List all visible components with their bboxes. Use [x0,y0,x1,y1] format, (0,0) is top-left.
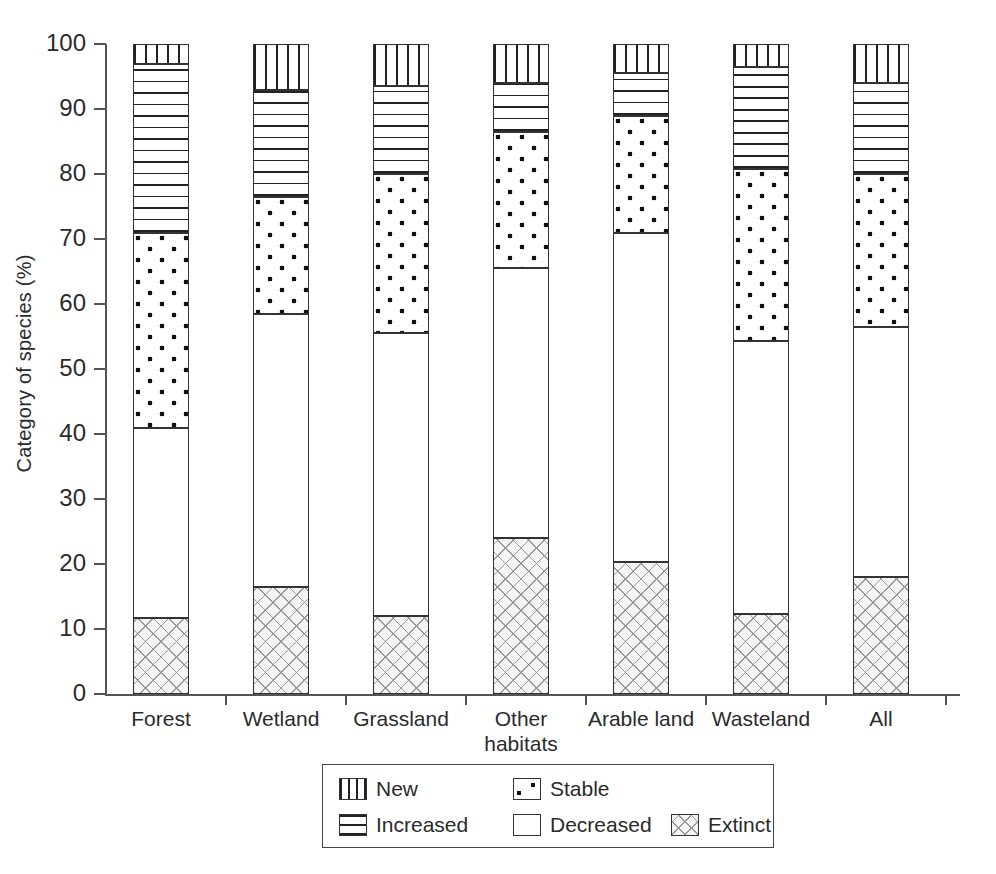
bar-segment-new [733,44,789,67]
bar-segment-new [613,44,669,73]
legend-label: Extinct [708,813,771,837]
bar-wasteland [733,44,789,694]
decreased-pattern-icon [513,814,541,836]
y-tick-label: 30 [20,486,86,510]
bar-segment-increased [493,83,549,132]
bar-segment-stable [853,174,909,327]
stable-pattern-icon [513,778,541,800]
x-category-line: Wetland [211,706,351,731]
bar-segment-stable [253,197,309,314]
y-tick [94,108,106,110]
bar-segment-increased [613,73,669,115]
y-tick [94,628,106,630]
y-tick-label: 50 [20,356,86,380]
bar-segment-decreased [613,233,669,563]
bar-wetland [253,44,309,694]
bar-segment-stable [613,116,669,233]
bar-segment-stable [493,132,549,269]
y-tick-label: 20 [20,551,86,575]
bar-segment-extinct [853,577,909,694]
x-axis-line [105,694,960,696]
legend-item-decreased: Decreased [513,813,652,837]
legend-label: Stable [550,777,610,801]
x-tick [945,694,947,705]
bar-segment-extinct [733,614,789,694]
bar-segment-extinct [613,562,669,694]
legend-label: Decreased [550,813,652,837]
bar-segment-decreased [853,327,909,577]
bar-segment-new [493,44,549,83]
x-tick [225,694,227,705]
bar-segment-decreased [493,268,549,538]
legend-label: New [376,777,418,801]
y-tick-label: 60 [20,291,86,315]
x-tick [825,694,827,705]
x-tick [345,694,347,705]
bar-segment-stable [373,174,429,333]
y-tick [94,368,106,370]
extinct-pattern-icon [671,814,699,836]
legend-item-increased: Increased [339,813,468,837]
y-tick [94,693,106,695]
stacked-bar-chart: Category of species (%) 0102030405060708… [0,0,996,874]
y-tick [94,303,106,305]
legend-item-new: New [339,777,418,801]
y-tick [94,498,106,500]
y-tick-label: 100 [20,31,86,55]
y-tick-label: 70 [20,226,86,250]
y-tick [94,173,106,175]
bar-segment-new [253,44,309,90]
legend-row-bottom: Increased Decreased Extinct [323,809,773,847]
bar-segment-new [133,44,189,64]
y-tick-label: 90 [20,96,86,120]
x-tick [585,694,587,705]
x-category-label: All [811,706,951,731]
x-category-label: Arable land [571,706,711,731]
bar-segment-decreased [733,341,789,614]
y-tick-label: 0 [20,681,86,705]
bar-segment-decreased [253,314,309,587]
legend: New Stable Increased Decreased Extinct [322,764,774,848]
y-tick [94,43,106,45]
legend-item-stable: Stable [513,777,610,801]
y-tick-label: 10 [20,616,86,640]
x-category-line: Wasteland [691,706,831,731]
y-tick [94,563,106,565]
bar-segment-stable [133,233,189,428]
bar-arable-land [613,44,669,694]
x-category-line: Forest [91,706,231,731]
x-category-label: Grassland [331,706,471,731]
bar-segment-new [853,44,909,83]
bar-segment-extinct [493,538,549,694]
bar-segment-decreased [373,333,429,616]
legend-label: Increased [376,813,468,837]
bar-all [853,44,909,694]
x-category-line: Arable land [571,706,711,731]
bar-segment-extinct [373,616,429,694]
legend-item-extinct: Extinct [671,813,771,837]
x-category-line: All [811,706,951,731]
new-pattern-icon [339,778,367,800]
bar-segment-new [373,44,429,86]
y-tick-label: 80 [20,161,86,185]
x-category-label: Wetland [211,706,351,731]
bar-other-habitats [493,44,549,694]
bar-segment-increased [133,64,189,233]
x-category-line: habitats [451,731,591,756]
y-tick [94,433,106,435]
y-tick [94,238,106,240]
x-category-line: Grassland [331,706,471,731]
bar-segment-increased [733,67,789,170]
increased-pattern-icon [339,814,367,836]
bar-forest [133,44,189,694]
bar-grassland [373,44,429,694]
legend-row-top: New Stable [323,771,773,809]
bar-segment-decreased [133,428,189,618]
bar-segment-extinct [253,587,309,694]
bar-segment-increased [373,86,429,174]
x-tick [465,694,467,705]
bar-segment-increased [253,90,309,197]
x-tick [705,694,707,705]
bar-segment-increased [853,83,909,174]
x-category-label: Forest [91,706,231,731]
